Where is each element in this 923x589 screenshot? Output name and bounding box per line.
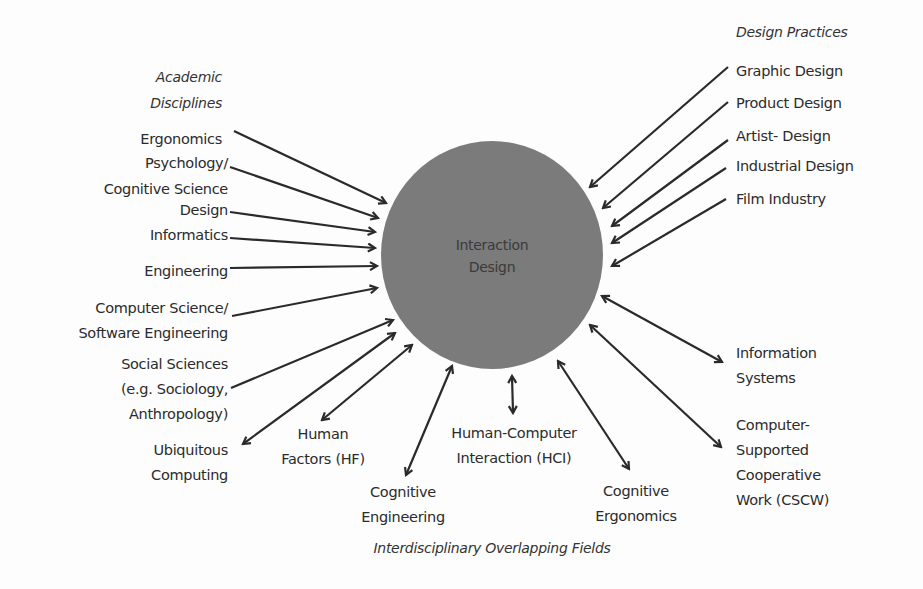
label-cscw-line-4: Work (CSCW) — [736, 492, 829, 508]
interaction-design-diagram: Interaction Design Academic Disciplines … — [0, 0, 923, 589]
label-informatics: Informatics — [150, 227, 228, 243]
label-hci-line-2: Interaction (HCI) — [457, 450, 572, 466]
label-social-line-3: Anthropology) — [129, 406, 228, 422]
label-hci-line-1: Human-Computer — [451, 425, 577, 441]
label-ubiquitous-line-2: Computing — [151, 467, 228, 483]
label-info-sys-line-2: Systems — [736, 370, 796, 386]
label-ergonomics: Ergonomics — [140, 131, 222, 147]
label-cs-line-2: Software Engineering — [78, 325, 228, 341]
design-practices-heading: Design Practices — [736, 24, 847, 40]
label-hf-line-1: Human — [298, 426, 349, 442]
label-cog-eng-line-1: Cognitive — [370, 484, 436, 500]
design-practices-group: Design Practices Graphic Design Product … — [736, 24, 854, 207]
diagram-canvas: Interaction Design Academic Disciplines … — [0, 0, 923, 589]
academic-arrows — [230, 131, 395, 444]
label-industrial-design: Industrial Design — [736, 158, 854, 174]
label-cs-line-1: Computer Science/ — [95, 300, 228, 316]
label-cscw-line-3: Cooperative — [736, 467, 821, 483]
arrow-ergonomics — [234, 131, 386, 203]
interdisciplinary-group: Human Factors (HF) Cognitive Engineering… — [281, 345, 829, 556]
center-circle — [381, 141, 603, 369]
center-label-line-1: Interaction — [456, 237, 529, 253]
label-cog-eng-line-2: Engineering — [361, 509, 445, 525]
label-hf-line-2: Factors (HF) — [281, 451, 365, 467]
interdisciplinary-heading: Interdisciplinary Overlapping Fields — [374, 540, 611, 556]
label-social-line-1: Social Sciences — [121, 356, 228, 372]
arrow-graphic-design — [590, 67, 728, 187]
arrow-cscw — [590, 325, 721, 447]
label-graphic-design: Graphic Design — [736, 63, 843, 79]
arrow-design — [230, 212, 375, 232]
design-practice-arrows — [590, 67, 728, 266]
center-label-line-2: Design — [469, 259, 516, 275]
label-artist-design: Artist- Design — [736, 128, 831, 144]
arrow-informatics — [230, 238, 375, 248]
arrow-social-sciences — [231, 320, 393, 388]
arrow-psychology — [230, 167, 378, 218]
label-cog-erg-line-2: Ergonomics — [595, 508, 677, 524]
interaction-design-node: Interaction Design — [381, 141, 603, 369]
academic-heading-line-2: Disciplines — [150, 95, 222, 111]
arrow-computer-science — [232, 288, 377, 316]
arrow-engineering — [230, 266, 377, 268]
label-social-line-2: (e.g. Sociology, — [121, 381, 228, 397]
arrow-human-factors — [322, 345, 412, 420]
label-cog-erg-line-1: Cognitive — [603, 483, 669, 499]
label-film-industry: Film Industry — [736, 191, 827, 207]
arrow-cognitive-engineering — [406, 366, 452, 475]
label-cscw-line-1: Computer- — [736, 417, 810, 433]
academic-heading-line-1: Academic — [155, 69, 223, 85]
label-engineering: Engineering — [144, 263, 228, 279]
arrow-hci — [512, 376, 513, 413]
academic-disciplines-group: Academic Disciplines Ergonomics Psycholo… — [78, 69, 228, 483]
label-info-sys-line-1: Information — [736, 345, 817, 361]
label-ubiquitous-line-1: Ubiquitous — [153, 442, 228, 458]
label-design: Design — [180, 202, 228, 218]
label-psychology-line-2: Cognitive Science — [104, 181, 229, 197]
label-product-design: Product Design — [736, 95, 842, 111]
label-cscw-line-2: Supported — [736, 442, 809, 458]
label-psychology-line-1: Psychology/ — [145, 155, 228, 171]
